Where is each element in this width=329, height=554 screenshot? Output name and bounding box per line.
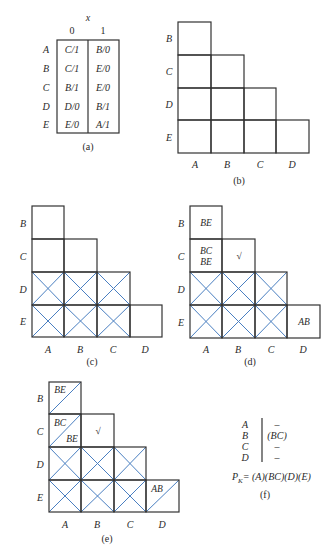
formula-rhs: = (A)(BC)(D)(E): [243, 471, 311, 482]
state-label: C: [242, 441, 249, 452]
state-label: B: [242, 430, 248, 441]
partition-value: –: [275, 419, 280, 430]
caption-f: (f): [260, 489, 270, 500]
partition-value: –: [275, 452, 280, 463]
state-label: A: [242, 419, 248, 430]
partition-value: (BC): [267, 430, 286, 441]
partition-formula: PK= (A)(BC)(D)(E): [232, 471, 311, 485]
state-label: D: [241, 452, 248, 463]
partition-value: –: [275, 441, 280, 452]
